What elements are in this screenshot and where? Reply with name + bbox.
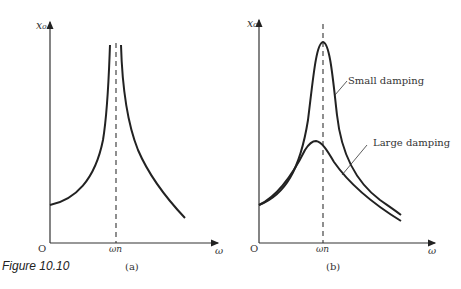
figure-canvas: x₀ O ωn ω (a) Small damping Large dampin… [0, 0, 461, 289]
panel-a: x₀ O ωn ω (a) [36, 19, 223, 272]
origin-b: O [250, 243, 258, 254]
origin-a: O [38, 243, 46, 254]
small-damping-label: Small damping [348, 75, 425, 86]
panel-b: Small damping Large damping x₀ O ωn ω (b… [247, 17, 451, 272]
y-label-b: x₀ [247, 17, 258, 30]
figure-caption: Figure 10.10 [2, 259, 70, 273]
y-label-a: x₀ [36, 19, 47, 32]
response-curve-a-left [50, 45, 110, 205]
marker-b: ωn [316, 244, 329, 254]
panel-label-a: (a) [125, 261, 139, 272]
large-damping-label: Large damping [373, 137, 451, 148]
x-label-b: ω [428, 245, 436, 256]
marker-a: ωn [109, 244, 122, 254]
response-curve-a-right [121, 45, 185, 218]
panel-label-b: (b) [326, 261, 340, 272]
small-damping-leader [335, 81, 347, 95]
x-label-a: ω [215, 245, 223, 256]
large-damping-curve [259, 141, 401, 221]
